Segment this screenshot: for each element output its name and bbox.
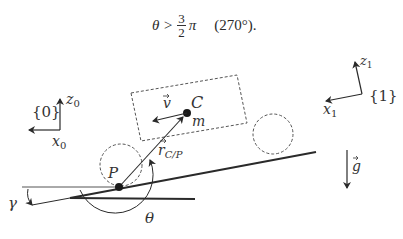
velocity-label: v xyxy=(163,95,171,111)
gamma-angle-arc xyxy=(28,189,33,205)
theta-label: θ xyxy=(145,209,154,227)
x0-label: x0 xyxy=(52,133,66,151)
gamma-slope-extension xyxy=(32,198,70,205)
frame-0-axes: {0} z0 x0 xyxy=(29,91,80,151)
mass-label: m xyxy=(192,113,205,129)
vehicle-body-outline xyxy=(131,75,247,141)
ground-horizontal-line xyxy=(70,198,195,199)
z1-label: z1 xyxy=(359,53,373,70)
x1-axis-arrow xyxy=(326,94,362,101)
velocity-vector-arrow xyxy=(153,113,187,121)
x1-label: x1 xyxy=(323,101,337,119)
contact-point-p xyxy=(115,183,123,191)
gravity-label: g xyxy=(352,158,361,174)
frame-1-label: {1} xyxy=(369,87,398,105)
slope-line xyxy=(70,152,316,198)
rear-wheel-outline xyxy=(100,144,142,186)
vehicle-on-slope-diagram: {0} z0 x0 γ θ rC/P P v C m {1} z1 x1 g xyxy=(0,0,403,239)
contact-point-label: P xyxy=(107,164,119,182)
position-vector-label: rC/P xyxy=(158,142,183,160)
front-wheel-outline xyxy=(253,114,293,154)
frame-0-label: {0} xyxy=(32,103,61,121)
frame-1-axes: {1} z1 x1 xyxy=(323,53,398,119)
center-label: C xyxy=(191,93,203,112)
gamma-label: γ xyxy=(8,194,17,212)
z0-label: z0 xyxy=(65,91,80,109)
